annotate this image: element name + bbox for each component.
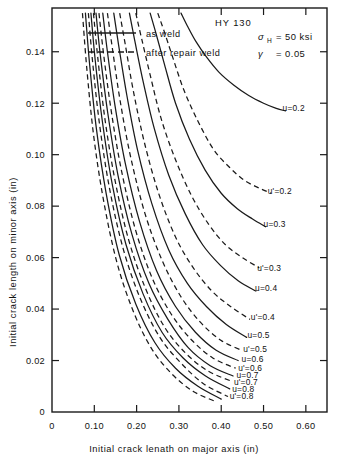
x-tick-label: 0.10	[85, 421, 104, 431]
y-axis-title: Initial crack length on minor axis (in)	[8, 177, 18, 347]
x-tick-label: 0	[49, 421, 54, 431]
crack-length-chart: 00.100.200.300.400.500.6000.020.040.060.…	[0, 0, 348, 461]
curve-label: u=0.3	[264, 219, 286, 229]
legend-label-after-repair-weld: after repair weld	[146, 48, 220, 58]
x-tick-label: 0.20	[127, 421, 146, 431]
curve-label: u'=0.5	[243, 344, 267, 354]
x-tick-label: 0.50	[254, 421, 273, 431]
curve-label: u'=0.2	[268, 186, 292, 196]
y-tick-label: 0.02	[26, 356, 45, 366]
y-tick-label: 0	[40, 407, 45, 417]
x-tick-label: 0.60	[296, 421, 315, 431]
curve-label: u'=0.3	[257, 263, 281, 273]
curve-label: u=0.2	[283, 103, 305, 113]
y-tick-label: 0.06	[26, 253, 45, 263]
material-label: HY 130	[215, 17, 252, 28]
legend-label-as-weld: as weld	[146, 29, 181, 39]
x-axis-title: Initial crack lenath on major axis (in)	[89, 444, 259, 454]
gamma-symbol: γ	[258, 48, 264, 59]
curve-label: u'=0.8	[230, 391, 254, 401]
sigma-subscript: H	[267, 37, 272, 44]
y-tick-label: 0.04	[26, 304, 45, 314]
curve-label: u'=0.4	[251, 312, 275, 322]
curve-label: u=0.4	[255, 283, 277, 293]
x-tick-label: 0.40	[212, 421, 231, 431]
sigma-value: = 50 ksi	[276, 31, 313, 42]
y-tick-label: 0.08	[26, 201, 45, 211]
y-tick-label: 0.12	[26, 99, 45, 109]
curve-label: u=0.5	[247, 330, 269, 340]
y-tick-label: 0.10	[26, 150, 45, 160]
sigma-symbol: σ	[258, 31, 264, 42]
figure-container: 00.100.200.300.400.500.6000.020.040.060.…	[0, 0, 348, 461]
gamma-value: = 0.05	[276, 48, 305, 59]
x-tick-label: 0.30	[169, 421, 188, 431]
y-tick-label: 0.14	[26, 47, 45, 57]
